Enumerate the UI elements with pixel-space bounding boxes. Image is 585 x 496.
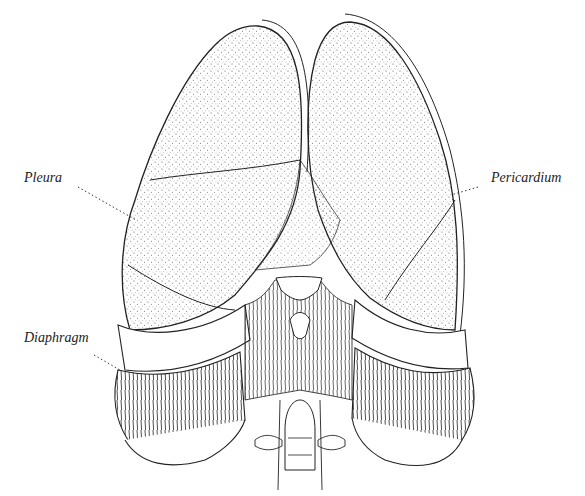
pleura-leader <box>78 187 136 220</box>
right-lung <box>308 14 464 335</box>
label-pericardium: Pericardium <box>491 170 561 186</box>
anatomy-illustration <box>0 0 585 496</box>
label-diaphragm: Diaphragm <box>24 330 89 346</box>
diaphragm-leader <box>94 355 120 370</box>
label-pleura: Pleura <box>24 170 62 186</box>
pericardium-leader <box>451 187 478 195</box>
central-diaphragm <box>245 277 352 491</box>
